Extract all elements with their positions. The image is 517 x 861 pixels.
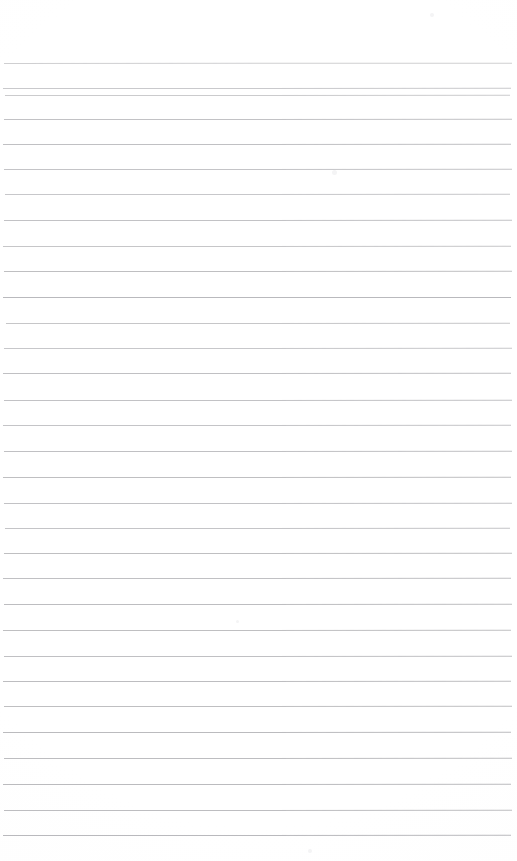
rule-line xyxy=(4,119,512,120)
rule-line xyxy=(3,373,511,374)
rule-line xyxy=(3,681,511,682)
rule-line xyxy=(5,528,510,529)
rule-line xyxy=(4,63,512,64)
rule-line xyxy=(4,348,512,349)
rule-line xyxy=(3,578,511,579)
rule-line xyxy=(3,246,511,247)
scan-speck xyxy=(236,620,239,623)
rule-line xyxy=(3,144,511,145)
top-margin xyxy=(0,0,517,63)
scanned-page xyxy=(0,0,517,861)
rule-line xyxy=(6,323,510,324)
scan-speck xyxy=(308,849,312,853)
rule-line xyxy=(4,656,512,657)
rule-line xyxy=(4,220,512,221)
rule-line xyxy=(5,194,510,195)
rule-line xyxy=(3,425,511,426)
rule-line xyxy=(3,88,511,89)
rule-line xyxy=(4,169,512,170)
scan-speck xyxy=(430,13,434,17)
rule-line xyxy=(4,706,512,707)
rule-line xyxy=(3,784,511,785)
rule-line xyxy=(4,604,512,605)
rule-line xyxy=(4,810,512,811)
rule-line xyxy=(5,95,510,96)
rule-line xyxy=(4,400,512,401)
rule-line xyxy=(3,732,511,733)
rule-line xyxy=(3,630,511,631)
rule-line xyxy=(4,758,512,759)
bottom-margin xyxy=(0,835,517,861)
rule-line xyxy=(4,271,512,272)
rule-line xyxy=(4,553,512,554)
scan-speck xyxy=(332,170,337,175)
rule-line xyxy=(4,451,512,452)
rule-line xyxy=(3,477,511,478)
rule-line xyxy=(3,297,511,298)
rule-line xyxy=(3,835,511,836)
rule-line xyxy=(4,503,512,504)
